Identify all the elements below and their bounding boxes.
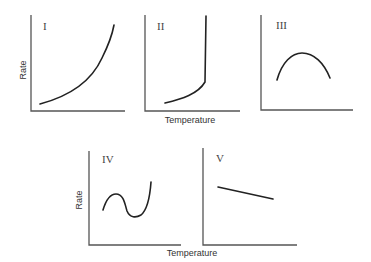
panel-v: V Temperature	[167, 148, 297, 258]
panel-ii-label: II	[157, 20, 165, 32]
panel-ii-curve	[165, 16, 206, 103]
x-axis-label-bottom: Temperature	[167, 248, 218, 258]
panel-v-curve	[218, 187, 273, 199]
panel-iii-axes	[261, 15, 353, 110]
y-axis-label-top: Rate	[18, 60, 28, 79]
panel-iii-label: III	[276, 19, 287, 31]
panel-iv-curve	[103, 182, 151, 217]
x-axis-label-top: Temperature	[165, 115, 216, 125]
panel-iii-curve	[277, 53, 330, 80]
panel-iv: IV Rate	[74, 151, 181, 245]
panel-i-curve	[40, 25, 114, 104]
panel-ii: II Temperature	[145, 15, 240, 125]
y-axis-label-bottom: Rate	[74, 190, 84, 209]
panel-v-label: V	[216, 152, 224, 164]
panel-i: I Rate	[18, 15, 125, 111]
panel-iii: III	[261, 15, 353, 110]
panel-iv-axes	[89, 151, 181, 245]
panel-iv-label: IV	[102, 153, 114, 165]
rate-temperature-diagram: I Rate II Temperature III IV Rate V Temp…	[0, 0, 371, 262]
panel-i-label: I	[43, 20, 47, 32]
